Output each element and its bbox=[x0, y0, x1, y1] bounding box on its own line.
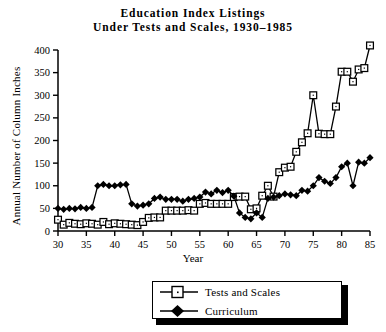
y-tick-label: 300 bbox=[34, 90, 50, 101]
x-tick-label: 75 bbox=[308, 239, 319, 250]
x-axis-label: Year bbox=[0, 252, 386, 264]
x-tick-label: 30 bbox=[53, 239, 64, 250]
legend-label-curriculum: Curriculum bbox=[205, 305, 258, 317]
data-point-marker bbox=[264, 182, 271, 189]
data-point-marker bbox=[100, 181, 107, 188]
series-line-curriculum bbox=[58, 158, 370, 219]
data-point-marker bbox=[71, 205, 78, 212]
data-point-marker bbox=[310, 92, 317, 99]
x-tick-label: 40 bbox=[109, 239, 120, 250]
legend-box: Tests and Scales Curriculum bbox=[152, 281, 342, 319]
y-tick-label: 100 bbox=[34, 180, 50, 191]
y-tick-label: 0 bbox=[45, 226, 50, 237]
legend-item-tests-and-scales: Tests and Scales bbox=[153, 282, 343, 301]
data-point-marker bbox=[349, 182, 356, 189]
x-tick-label: 35 bbox=[81, 239, 92, 250]
y-tick-label: 350 bbox=[34, 67, 50, 78]
data-point-marker bbox=[281, 190, 288, 197]
x-tick-label: 50 bbox=[166, 239, 177, 250]
legend-label-tests-and-scales: Tests and Scales bbox=[205, 286, 280, 298]
data-point-marker bbox=[287, 191, 294, 198]
data-point-marker bbox=[191, 207, 198, 214]
data-point-marker bbox=[117, 181, 124, 188]
data-point-marker bbox=[139, 202, 146, 209]
data-point-marker bbox=[77, 204, 84, 211]
data-point-marker bbox=[344, 160, 351, 167]
data-point-marker bbox=[111, 182, 118, 189]
data-point-marker bbox=[88, 204, 95, 211]
data-point-marker bbox=[94, 182, 101, 189]
chart-legend: Tests and Scales Curriculum bbox=[152, 281, 348, 325]
data-point-marker bbox=[179, 198, 186, 205]
x-tick-label: 70 bbox=[280, 239, 291, 250]
x-tick-label: 65 bbox=[251, 239, 262, 250]
legend-item-curriculum: Curriculum bbox=[153, 301, 343, 320]
data-point-marker bbox=[287, 163, 294, 170]
data-point-marker bbox=[299, 139, 306, 146]
open-square-icon bbox=[153, 285, 205, 299]
y-tick-label: 200 bbox=[34, 135, 50, 146]
data-point-marker bbox=[293, 148, 300, 155]
data-point-marker bbox=[338, 163, 345, 170]
data-point-marker bbox=[122, 181, 129, 188]
data-point-marker bbox=[259, 192, 266, 199]
y-tick-label: 250 bbox=[34, 112, 50, 123]
data-point-marker bbox=[350, 78, 357, 85]
x-tick-label: 80 bbox=[336, 239, 347, 250]
data-point-marker bbox=[54, 205, 61, 212]
data-point-marker bbox=[185, 196, 192, 203]
data-point-marker bbox=[66, 205, 73, 212]
data-point-marker bbox=[327, 131, 334, 138]
data-point-marker bbox=[242, 193, 249, 200]
data-point-marker bbox=[83, 205, 90, 212]
y-axis-label: Annual Number of Column Inches bbox=[10, 46, 22, 246]
data-point-marker bbox=[361, 65, 368, 72]
data-point-marker bbox=[344, 68, 351, 75]
y-tick-label: 150 bbox=[34, 158, 50, 169]
x-tick-label: 55 bbox=[195, 239, 206, 250]
data-point-marker bbox=[333, 103, 340, 110]
x-tick-label: 60 bbox=[223, 239, 234, 250]
data-point-marker bbox=[225, 200, 232, 207]
data-point-marker bbox=[304, 130, 311, 137]
data-point-marker bbox=[157, 214, 164, 221]
chart-figure: Education Index Listings Under Tests and… bbox=[0, 0, 386, 332]
y-tick-label: 50 bbox=[40, 203, 51, 214]
data-point-marker bbox=[208, 190, 215, 197]
x-tick-label: 45 bbox=[138, 239, 149, 250]
filled-diamond-icon bbox=[153, 304, 205, 318]
data-point-marker bbox=[367, 42, 374, 49]
x-tick-label: 85 bbox=[365, 239, 376, 250]
y-tick-label: 400 bbox=[34, 45, 50, 56]
data-point-marker bbox=[355, 159, 362, 166]
data-point-marker bbox=[174, 196, 181, 203]
data-point-marker bbox=[60, 206, 67, 213]
